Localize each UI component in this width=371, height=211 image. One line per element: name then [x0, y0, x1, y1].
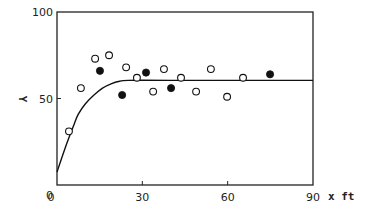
open-data-point — [224, 93, 231, 100]
y-tick-label: 50 — [39, 93, 53, 106]
open-data-point — [134, 74, 141, 81]
y-tick-label: 100 — [32, 6, 53, 19]
open-data-point — [207, 66, 214, 73]
open-data-point — [240, 74, 247, 81]
open-data-point — [77, 85, 84, 92]
x-axis-label: x ft — [328, 190, 355, 203]
axis-ticks — [57, 99, 228, 186]
y-axis-label: Y — [16, 96, 29, 103]
open-data-point — [106, 52, 113, 59]
open-data-point — [123, 64, 130, 71]
filled-data-point — [96, 67, 103, 74]
open-data-point — [66, 128, 73, 135]
x-tick-label: 90 — [306, 191, 320, 204]
open-data-point — [92, 55, 99, 62]
open-data-point — [193, 88, 200, 95]
y-tick-label: 0 — [46, 189, 53, 202]
open-data-point — [150, 88, 157, 95]
x-tick-label: 60 — [221, 191, 235, 204]
filled-data-point — [167, 85, 174, 92]
open-data-point — [161, 66, 168, 73]
filled-data-point — [142, 69, 149, 76]
scatter-chart: 0306090050100 Y x ft — [0, 0, 371, 211]
fitted-curve — [57, 80, 313, 172]
filled-data-point — [119, 91, 126, 98]
x-tick-label: 30 — [135, 191, 149, 204]
filled-data-point — [266, 71, 273, 78]
tick-labels: 0306090050100 — [32, 6, 320, 204]
open-data-point — [178, 74, 185, 81]
plot-frame — [57, 12, 313, 185]
